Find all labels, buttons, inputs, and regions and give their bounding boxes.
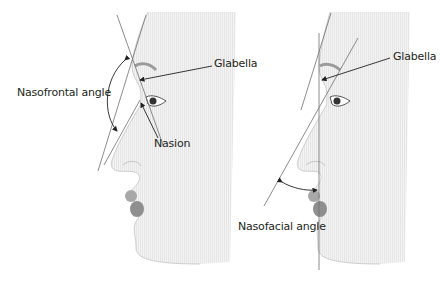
left-eye-icon (150, 98, 157, 105)
nasofrontal-angle-label: Nasofrontal angle (17, 86, 111, 99)
facial-angles-diagram: Nasofrontal angle Glabella Nasion Glabel… (0, 0, 447, 285)
right-eye-icon (334, 98, 341, 105)
glabella-label-right: Glabella (393, 50, 436, 63)
nasion-label: Nasion (154, 137, 190, 150)
glabella-label-left: Glabella (214, 57, 257, 70)
diagram-canvas (0, 0, 447, 285)
nasofacial-angle-arc (282, 182, 317, 190)
nasofacial-angle-label: Nasofacial angle (238, 220, 326, 233)
